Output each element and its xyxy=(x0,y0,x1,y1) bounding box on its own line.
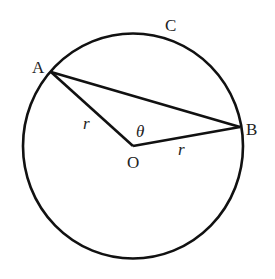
label-theta: θ xyxy=(136,122,144,141)
radius-ob xyxy=(133,127,240,146)
circle-diagram: A B C O r r θ xyxy=(0,0,275,279)
label-b: B xyxy=(246,120,257,139)
label-o: O xyxy=(127,153,139,172)
label-c: C xyxy=(165,16,176,35)
chord-ab xyxy=(51,72,240,127)
label-r-oa: r xyxy=(83,114,90,133)
label-r-ob: r xyxy=(178,140,185,159)
label-a: A xyxy=(32,58,45,77)
